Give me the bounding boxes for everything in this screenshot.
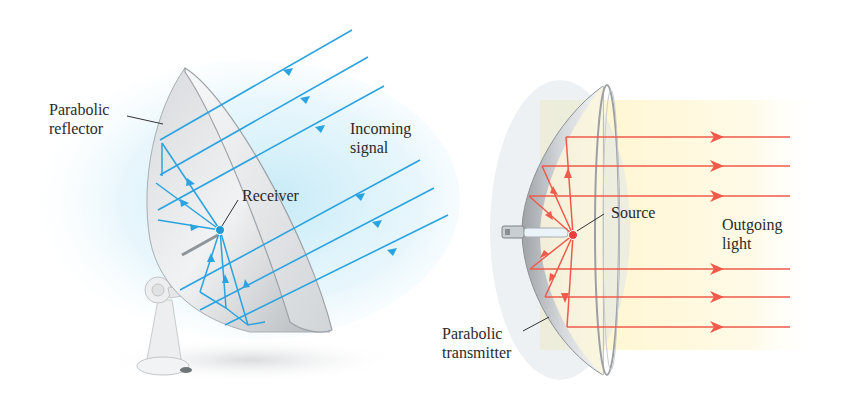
diagram-canvas: Parabolic reflector Incoming signal Rece… bbox=[0, 0, 847, 406]
label-source: Source bbox=[611, 203, 655, 222]
bulb-socket-icon bbox=[502, 226, 568, 238]
label-parabolic-reflector: Parabolic reflector bbox=[49, 100, 109, 138]
diagram-svg bbox=[0, 0, 847, 406]
source-dot bbox=[569, 231, 578, 240]
label-receiver: Receiver bbox=[242, 186, 299, 205]
receiver-dot bbox=[216, 226, 225, 235]
label-incoming-signal: Incoming signal bbox=[350, 119, 411, 157]
satellite-dish-diagram bbox=[40, 30, 460, 382]
label-parabolic-transmitter: Parabolic transmitter bbox=[442, 324, 511, 362]
label-outgoing-light: Outgoing light bbox=[722, 215, 782, 253]
